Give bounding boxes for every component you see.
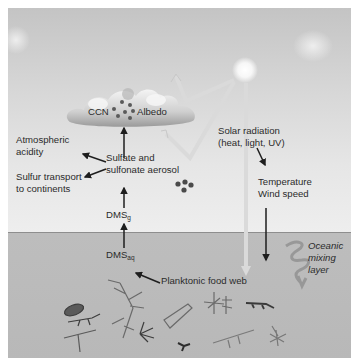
label-oceanic-mixing-line2: mixing (308, 252, 336, 264)
mixing-swirl-icon (286, 242, 309, 286)
label-ccn: CCN (88, 106, 109, 118)
dms-cycle-diagram: CCN Albedo Atmospheric acidity Sulfur tr… (8, 8, 351, 358)
larval-plankton-icon (108, 280, 144, 338)
dms-g-base: DMS (106, 209, 127, 220)
pteropod-icon (140, 322, 154, 342)
mysid-icon (64, 330, 96, 352)
label-sulfate-line2: sulfonate aerosol (106, 164, 179, 176)
haze-patch (8, 26, 30, 54)
label-albedo: Albedo (137, 106, 167, 118)
arrow-to-atmospheric-acidity (83, 154, 106, 162)
cloud-icon (67, 88, 195, 127)
aerosol-particles (175, 179, 193, 192)
copepod-icon (63, 302, 85, 318)
sun-icon (232, 57, 258, 83)
arrow-solar-to-temperature (257, 148, 265, 165)
label-solar-radiation-line1: Solar radiation (218, 125, 280, 137)
label-atmospheric-acidity-line2: acidity (16, 146, 43, 158)
radiolarian-icon (204, 292, 232, 314)
dms-aq-base: DMS (106, 249, 127, 260)
krill-icon (246, 303, 274, 309)
label-oceanic-mixing-line1: Oceanic (308, 240, 343, 252)
tunicate-icon (164, 304, 192, 328)
larva-icon (270, 326, 286, 346)
arrow-foodweb-to-dmsaq (136, 273, 160, 283)
label-temperature: Temperature (258, 176, 312, 188)
small-copepod-icon (178, 343, 190, 351)
label-dms-aq: DMSaq (106, 249, 135, 264)
arrow-worm-icon (213, 330, 254, 348)
label-oceanic-mixing-line3: layer (308, 264, 329, 276)
plankton-illustrations (63, 280, 286, 352)
label-solar-radiation-line2: (heat, light, UV) (218, 137, 285, 149)
label-atmospheric-acidity-line1: Atmospheric (16, 134, 69, 146)
label-planktonic-food-web: Planktonic food web (161, 275, 247, 287)
haze-patch (293, 30, 333, 62)
label-dms-g: DMSg (106, 209, 131, 224)
dms-aq-subscript: aq (127, 254, 134, 261)
label-sulfate-line1: Sulfate and (106, 152, 155, 164)
arrow-to-sulfur-transport (85, 169, 106, 177)
label-sulfur-transport-line1: Sulfur transport (16, 171, 82, 183)
label-sulfur-transport-line2: to continents (16, 183, 70, 195)
label-wind-speed: Wind speed (258, 188, 309, 200)
dms-g-subscript: g (127, 214, 131, 221)
